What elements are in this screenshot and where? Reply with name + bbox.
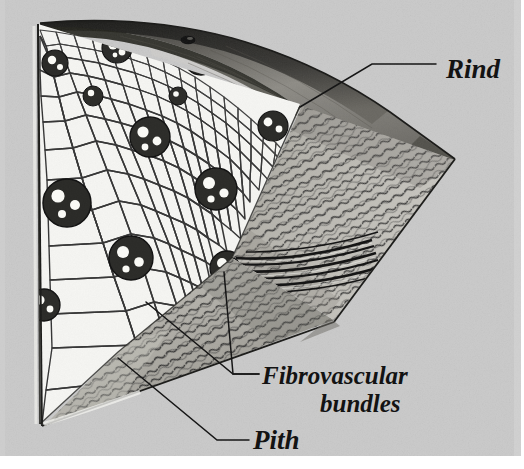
label-fibrovascular-bundles-line2: bundles [320,390,401,417]
fibrovascular-bundle [169,87,187,105]
label-fibrovascular-bundles-line1: Fibrovascular [261,362,408,389]
fibrovascular-bundle [130,117,170,157]
stem-cross-section-illustration: Rind Fibrovascular bundles Pith [0,0,524,469]
fibrovascular-bundle [83,86,103,106]
label-pith: Pith [252,425,300,455]
figure-root: Rind Fibrovascular bundles Pith [0,0,524,469]
label-rind: Rind [445,54,501,84]
fibrovascular-bundle [109,236,153,280]
fibrovascular-bundle [43,179,91,227]
fibrovascular-bundle [258,111,288,141]
plate-edge-left [0,0,5,456]
pith-left-edge-highlight [34,26,36,424]
fibrovascular-bundle [195,168,237,210]
fibrovascular-bundle [42,50,68,76]
plate-edge-right [514,0,521,456]
